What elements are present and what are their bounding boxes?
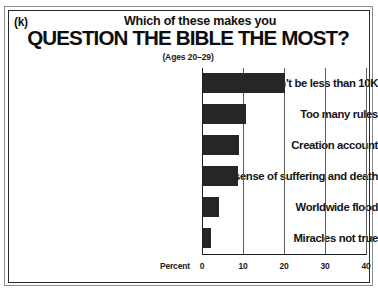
x-axis-line: [202, 254, 367, 255]
x-axis-title: Percent: [160, 261, 190, 271]
bar-fill: [203, 166, 238, 186]
gridline-40: [366, 68, 367, 255]
bar-fill: [203, 73, 285, 93]
bar: [203, 228, 211, 248]
x-tick-label: 0: [192, 261, 212, 271]
gridline-20: [284, 68, 285, 255]
bar: [203, 73, 285, 93]
x-tick-label: 30: [315, 261, 335, 271]
bar-fill: [203, 228, 211, 248]
x-tick-label: 20: [274, 261, 294, 271]
gridline-10: [243, 68, 244, 255]
gridline-30: [325, 68, 326, 255]
bar-fill: [203, 197, 219, 217]
bar: [203, 197, 219, 217]
bar: [203, 135, 239, 155]
chart-subtitle: (Ages 20–29): [12, 52, 364, 62]
bar: [203, 166, 238, 186]
x-tick-label: 40: [356, 261, 376, 271]
bar: [203, 104, 246, 124]
plot-area: [202, 68, 366, 255]
chart-figure: (k) Which of these makes you QUESTION TH…: [0, 0, 378, 293]
bar-fill: [203, 104, 246, 124]
y-axis-line: [202, 68, 203, 255]
x-tick-label: 10: [233, 261, 253, 271]
bar-fill: [203, 135, 239, 155]
page-title: QUESTION THE BIBLE THE MOST?: [16, 27, 361, 49]
